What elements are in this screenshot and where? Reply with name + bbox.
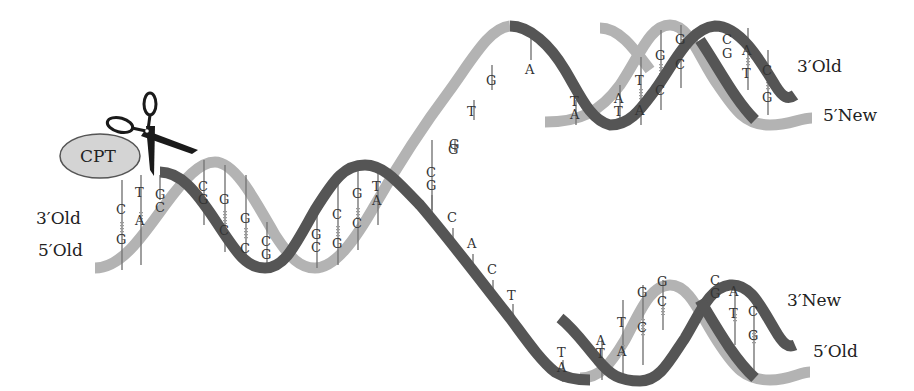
- svg-text:G: G: [657, 274, 667, 289]
- svg-text:A: A: [556, 360, 567, 375]
- svg-text:T: T: [729, 306, 738, 321]
- svg-text:A: A: [524, 62, 535, 77]
- svg-text:C: C: [219, 223, 229, 238]
- svg-text:C: C: [155, 200, 165, 215]
- svg-text:G: G: [655, 48, 665, 63]
- dna-replication-diagram: C G T A G C C G G C G C C G G C C G G C …: [0, 0, 914, 391]
- svg-text:C: C: [675, 57, 685, 72]
- fork-base-letters: G G T G A C A C T: [447, 62, 535, 303]
- svg-text:T: T: [557, 345, 566, 360]
- svg-text:C: C: [240, 241, 250, 256]
- diagram-canvas: C G T A G C C G G C G C C G G C C G G C …: [0, 0, 914, 391]
- label-parent-5-old: 5′Old: [38, 240, 83, 260]
- svg-text:G: G: [637, 285, 647, 300]
- svg-text:G: G: [748, 328, 758, 343]
- svg-text:C: C: [748, 304, 758, 319]
- svg-text:C: C: [332, 207, 342, 222]
- label-lower-5-old: 5′Old: [813, 341, 858, 361]
- svg-text:C: C: [447, 210, 457, 225]
- svg-text:C: C: [116, 202, 126, 217]
- label-upper-5-new: 5′New: [823, 105, 878, 125]
- svg-text:G: G: [426, 178, 436, 193]
- svg-text:G: G: [762, 90, 772, 105]
- svg-text:C: C: [352, 216, 362, 231]
- lower-dark-front: [700, 300, 755, 378]
- svg-text:T: T: [372, 179, 381, 194]
- svg-text:G: G: [352, 186, 362, 201]
- svg-text:A: A: [616, 344, 627, 359]
- svg-text:G: G: [219, 192, 229, 207]
- svg-text:G: G: [710, 286, 720, 301]
- label-upper-3-old: 3′Old: [797, 56, 842, 76]
- svg-text:T: T: [596, 346, 605, 361]
- svg-text:C: C: [311, 240, 321, 255]
- svg-text:C: C: [722, 32, 732, 47]
- svg-text:G: G: [198, 192, 208, 207]
- svg-text:A: A: [569, 107, 580, 122]
- svg-text:A: A: [134, 213, 145, 228]
- svg-text:G: G: [116, 232, 126, 247]
- cpt-enzyme: CPT: [60, 134, 140, 178]
- svg-text:T: T: [742, 66, 751, 81]
- label-lower-3-new: 3′New: [787, 290, 842, 310]
- svg-text:A: A: [634, 103, 645, 118]
- svg-text:C: C: [487, 262, 497, 277]
- svg-text:T: T: [617, 315, 626, 330]
- svg-text:G: G: [486, 73, 496, 88]
- svg-text:C: C: [637, 320, 647, 335]
- svg-text:A: A: [728, 284, 739, 299]
- svg-text:C: C: [657, 294, 667, 309]
- svg-text:G: G: [449, 137, 459, 152]
- svg-text:G: G: [261, 247, 271, 262]
- svg-text:T: T: [135, 185, 144, 200]
- svg-text:T: T: [467, 104, 476, 119]
- svg-text:G: G: [332, 236, 342, 251]
- svg-text:T: T: [507, 288, 516, 303]
- label-parent-3-old: 3′Old: [36, 208, 81, 228]
- cpt-label: CPT: [80, 146, 116, 166]
- svg-text:G: G: [240, 211, 250, 226]
- svg-text:A: A: [741, 43, 752, 58]
- svg-text:T: T: [635, 73, 644, 88]
- svg-text:C: C: [655, 83, 665, 98]
- svg-text:G: G: [722, 46, 732, 61]
- svg-text:A: A: [466, 236, 477, 251]
- svg-text:C: C: [762, 63, 772, 78]
- svg-text:A: A: [371, 193, 382, 208]
- svg-text:G: G: [675, 32, 685, 47]
- svg-text:T: T: [614, 104, 623, 119]
